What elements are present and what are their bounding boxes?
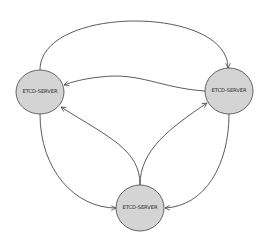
node-bottom[interactable]: ETCD-SERVER	[116, 185, 164, 231]
node-bottom-label: ETCD-SERVER	[123, 204, 158, 210]
edge-left-to-right-top	[40, 21, 228, 70]
node-right[interactable]: ETCD-SERVER	[205, 68, 253, 114]
node-left[interactable]: ETCD-SERVER	[16, 70, 64, 114]
edge-left-to-bottom	[40, 114, 116, 208]
cluster-diagram: ETCD-SERVER ETCD-SERVER ETCD-SERVER	[0, 0, 265, 245]
edge-right-to-left-middle	[64, 76, 205, 91]
edge-bottom-to-right	[140, 103, 207, 185]
edge-right-to-bottom	[165, 114, 229, 208]
node-left-label: ETCD-SERVER	[23, 88, 58, 94]
edge-bottom-to-left	[61, 107, 140, 185]
node-right-label: ETCD-SERVER	[212, 87, 247, 93]
